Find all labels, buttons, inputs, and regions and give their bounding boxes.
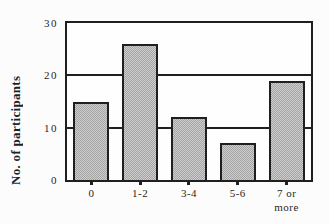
bar-0 [73,102,109,181]
bar-slot [116,23,165,180]
x-tick-cell [67,182,116,185]
x-tick-cell [213,182,262,185]
x-tick-cell [165,182,214,185]
bar-slot [67,23,116,180]
x-category-label: 5-6 [213,187,262,201]
bar-1-2 [122,44,158,180]
x-tick-mark [187,182,190,185]
bar-7-or-more [269,81,305,180]
bar-series [67,23,311,180]
plot-area [65,21,313,182]
bar-5-6 [220,143,256,180]
x-category-label: 1-2 [116,187,165,201]
y-tick-label: 30 [44,18,58,29]
bar-slot [213,23,262,180]
x-axis-category-labels: 01-23-45-67 or more [67,187,311,215]
x-category-label: 7 or more [262,187,311,215]
x-category-label: 0 [67,187,116,201]
x-tick-mark [90,182,93,185]
x-tick-mark [236,182,239,185]
x-tick-cell [116,182,165,185]
bar-chart-figure: No. of participants 0102030 01-23-45-67 … [0,0,329,224]
y-axis-tick-labels: 0102030 [0,23,58,180]
bar-slot [262,23,311,180]
y-tick-label: 20 [44,70,58,81]
bar-slot [165,23,214,180]
y-tick-label: 0 [51,175,58,186]
y-tick-label: 10 [44,122,58,133]
x-tick-cell [262,182,311,185]
x-category-label: 3-4 [165,187,214,201]
x-tick-mark [285,182,288,185]
x-tick-mark [139,182,142,185]
x-axis-tick-marks [67,182,311,185]
bar-3-4 [171,117,207,180]
